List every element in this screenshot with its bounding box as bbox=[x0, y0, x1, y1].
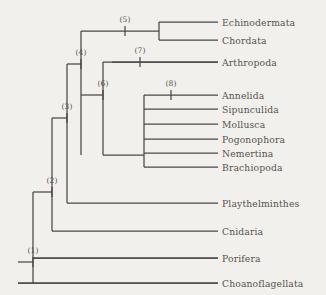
taxon-label-chordata: Chordata bbox=[222, 35, 267, 46]
taxon-label-mollusca: Mollusca bbox=[222, 119, 265, 130]
taxon-label-annelida: Annelida bbox=[222, 90, 264, 101]
node-label-node-8: (8) bbox=[166, 79, 177, 88]
taxon-label-choanoflagellata: Choanoflagellata bbox=[222, 278, 303, 289]
node-label-node-3: (3) bbox=[62, 102, 73, 111]
cladogram-canvas bbox=[0, 0, 326, 295]
node-label-node-4: (4) bbox=[76, 48, 87, 57]
node-label-node-6: (6) bbox=[98, 79, 109, 88]
node-label-node-2: (2) bbox=[47, 176, 58, 185]
node-label-node-1: (1) bbox=[28, 246, 39, 255]
taxon-label-arthropoda: Arthropoda bbox=[222, 57, 277, 68]
node-label-node-5: (5) bbox=[120, 15, 131, 24]
taxon-label-brachiopoda: Brachiopoda bbox=[222, 162, 283, 173]
taxon-label-cnidaria: Cnidaria bbox=[222, 226, 263, 237]
leaf-branch-lines bbox=[18, 22, 218, 283]
taxon-label-pogonophora: Pogonophora bbox=[222, 134, 285, 145]
node-label-node-7: (7) bbox=[135, 46, 146, 55]
taxon-label-playthelminthes: Playthelminthes bbox=[222, 198, 299, 209]
taxon-label-sipunculida: Sipunculida bbox=[222, 104, 279, 115]
phylogenetic-tree-figure: EchinodermataChordataArthropodaAnnelidaS… bbox=[0, 0, 326, 295]
taxon-label-echinodermata: Echinodermata bbox=[222, 17, 295, 28]
taxon-label-porifera: Porifera bbox=[222, 253, 261, 264]
taxon-label-nemertina: Nemertina bbox=[222, 148, 273, 159]
